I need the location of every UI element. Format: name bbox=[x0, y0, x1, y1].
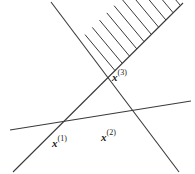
vertex-label-x1: x(1) bbox=[52, 136, 67, 149]
vertex-label-x2-base: x bbox=[101, 131, 107, 143]
vertex-label-x1-superscript: (1) bbox=[58, 134, 67, 143]
line-descending bbox=[51, 2, 179, 172]
vertex-label-x3-superscript: (3) bbox=[118, 68, 127, 77]
hatch-stroke bbox=[121, 0, 151, 34]
line-shallow bbox=[10, 101, 191, 130]
vertex-label-x2: x(2) bbox=[101, 130, 116, 143]
vertex-label-x3: x(3) bbox=[112, 70, 127, 83]
hatch-stroke bbox=[129, 0, 159, 27]
hatch-stroke bbox=[114, 6, 144, 42]
vertex-label-x3-base: x bbox=[112, 71, 118, 83]
geometry-figure: x(1) x(2) x(3) bbox=[0, 0, 195, 174]
vertex-label-x1-base: x bbox=[52, 137, 58, 149]
line-ascending bbox=[13, 3, 183, 172]
hatching-group bbox=[85, 0, 180, 71]
hatch-stroke bbox=[107, 13, 137, 49]
lines-group bbox=[10, 2, 191, 172]
hatch-stroke bbox=[136, 0, 166, 20]
figure-canvas bbox=[0, 0, 195, 174]
hatch-stroke bbox=[100, 20, 130, 56]
hatch-stroke bbox=[92, 27, 122, 63]
vertex-label-x2-superscript: (2) bbox=[107, 128, 116, 137]
